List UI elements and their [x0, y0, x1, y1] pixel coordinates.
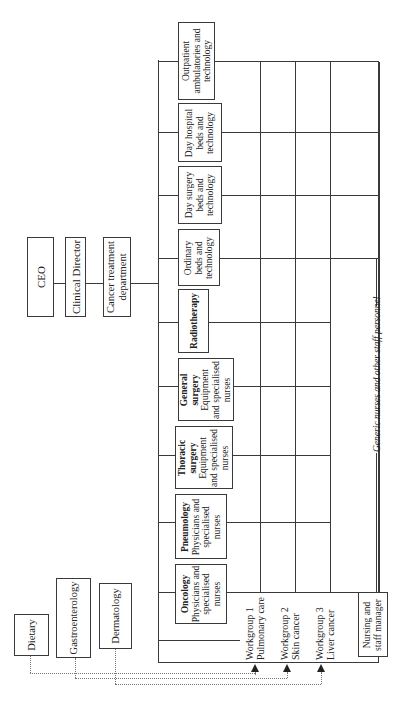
main-spine — [158, 60, 159, 663]
workgroup-stub — [158, 640, 240, 641]
workgroup-1-label: Workgroup 1Pulmonary care — [244, 597, 266, 660]
dotted-wg3-up — [321, 672, 322, 684]
dotted-wg1-up — [255, 672, 256, 674]
grid-col-workgroup2 — [295, 62, 296, 593]
dotted-wg2-up — [287, 672, 288, 678]
dotted-dietary-down — [30, 656, 31, 673]
connector-department-spine — [131, 283, 158, 284]
ceo-box: CEO — [27, 237, 54, 317]
arrow-up-icon — [317, 664, 325, 672]
arrow-up-icon — [251, 664, 259, 672]
connector-director-department — [86, 283, 103, 284]
nursing-connector-bottom — [378, 657, 379, 663]
generic-staff-label: Generic nurses and other staff personnel — [372, 297, 383, 452]
dotted-derm-to-wg3 — [115, 684, 321, 685]
unit-oncology: OncologyPhysicians andspecialisednurses — [175, 564, 227, 624]
unit-general-surgery: Generalsurgery Equipmentand specialisedn… — [178, 358, 234, 421]
external-gastroenterology: Gastroenterology — [56, 578, 91, 658]
grid-col-workgroup3 — [330, 62, 331, 593]
cancer-department-box: Cancer treatmentdepartment — [103, 237, 131, 317]
unit-outpatient: Outpatientambulatories andtechnology — [178, 22, 215, 100]
clinical-director-box: Clinical Director — [65, 237, 86, 317]
cancer-department-label: Cancer treatmentdepartment — [105, 241, 129, 313]
arrow-up-icon — [283, 664, 291, 672]
unit-ordinary: Ordinarybeds andtechnology — [178, 229, 220, 286]
clinical-director-label: Clinical Director — [69, 240, 81, 314]
dotted-gastro-down — [75, 658, 76, 678]
ceo-label: CEO — [34, 266, 46, 288]
dotted-derm-down — [115, 649, 116, 684]
dotted-gastro-to-wg2 — [75, 678, 287, 679]
connector-ceo-director — [54, 283, 65, 284]
external-dermatology: Dermatology — [99, 583, 132, 649]
unit-day-hospital: Day hospitalbeds andtechnology — [178, 103, 222, 162]
unit-radiotherapy: Radiotherapy — [178, 289, 209, 353]
unit-day-surgery: Day surgerybeds andtechnology — [178, 166, 222, 224]
unit-pneumology: PneumologyPhysicians andspecialisednurse… — [175, 494, 227, 559]
external-dietary: Dietary — [14, 614, 49, 656]
nursing-manager-box: Nursing andstaff manager — [358, 592, 388, 657]
workgroup-3-label: Workgroup 3Liver cancer — [314, 607, 336, 660]
workgroup-2-label: Workgroup 2Skin cancer — [279, 607, 301, 660]
bottom-line — [158, 662, 379, 663]
dotted-dietary-to-wg1 — [30, 673, 255, 674]
generic-staff-line-bottom — [376, 453, 377, 592]
unit-thoracic-surgery: Thoracicsurgery Equipmentand specialised… — [175, 426, 233, 489]
grid-col-workgroup1 — [260, 62, 261, 593]
